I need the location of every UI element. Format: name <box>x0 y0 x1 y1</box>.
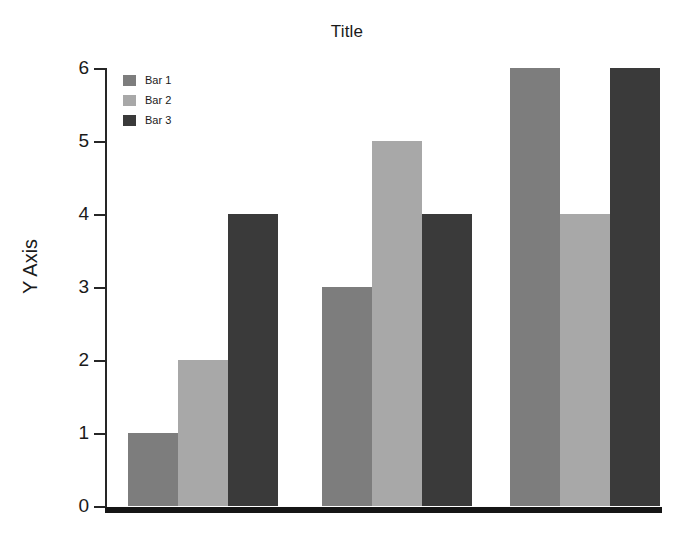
x-axis-baseline <box>105 507 662 513</box>
legend: Bar 1Bar 2Bar 3 <box>123 72 171 132</box>
y-tick-mark <box>94 141 105 143</box>
legend-swatch-icon <box>123 95 136 106</box>
y-tick-mark <box>94 506 105 508</box>
plot-area: 0123456 Bar 1Bar 2Bar 3 <box>105 68 662 506</box>
legend-swatch-icon <box>123 115 136 126</box>
bar-2-bar-2 <box>372 141 422 506</box>
y-axis-label: Y Axis <box>19 177 42 357</box>
y-tick-mark <box>94 433 105 435</box>
y-axis-spine <box>105 68 107 507</box>
y-tick-mark <box>94 68 105 70</box>
legend-label: Bar 3 <box>145 115 171 126</box>
y-tick-label: 5 <box>78 130 89 152</box>
bar-chart-figure: Title Y Axis 0123456 Bar 1Bar 2Bar 3 <box>0 0 694 555</box>
y-tick-label: 4 <box>78 203 89 225</box>
y-tick-label: 1 <box>78 422 89 444</box>
bar-3-bar-3 <box>610 68 660 506</box>
bar-2-bar-1 <box>322 287 372 506</box>
y-tick-label: 6 <box>78 57 89 79</box>
bar-1-bar-3 <box>228 214 278 506</box>
bar-2-bar-3 <box>422 214 472 506</box>
y-tick-label: 0 <box>78 495 89 517</box>
y-tick-mark <box>94 360 105 362</box>
y-tick-mark <box>94 214 105 216</box>
y-tick-label: 3 <box>78 276 89 298</box>
bar-3-bar-1 <box>510 68 560 506</box>
legend-item-bar-1: Bar 1 <box>123 72 171 89</box>
legend-swatch-icon <box>123 75 136 86</box>
legend-item-bar-2: Bar 2 <box>123 92 171 109</box>
legend-label: Bar 1 <box>145 75 171 86</box>
y-tick-label: 2 <box>78 349 89 371</box>
bar-1-bar-1 <box>128 433 178 506</box>
y-axis-label-container: Y Axis <box>0 0 70 555</box>
bar-1-bar-2 <box>178 360 228 506</box>
bar-3-bar-2 <box>560 214 610 506</box>
y-tick-mark <box>94 287 105 289</box>
legend-label: Bar 2 <box>145 95 171 106</box>
legend-item-bar-3: Bar 3 <box>123 112 171 129</box>
chart-title: Title <box>0 22 694 42</box>
